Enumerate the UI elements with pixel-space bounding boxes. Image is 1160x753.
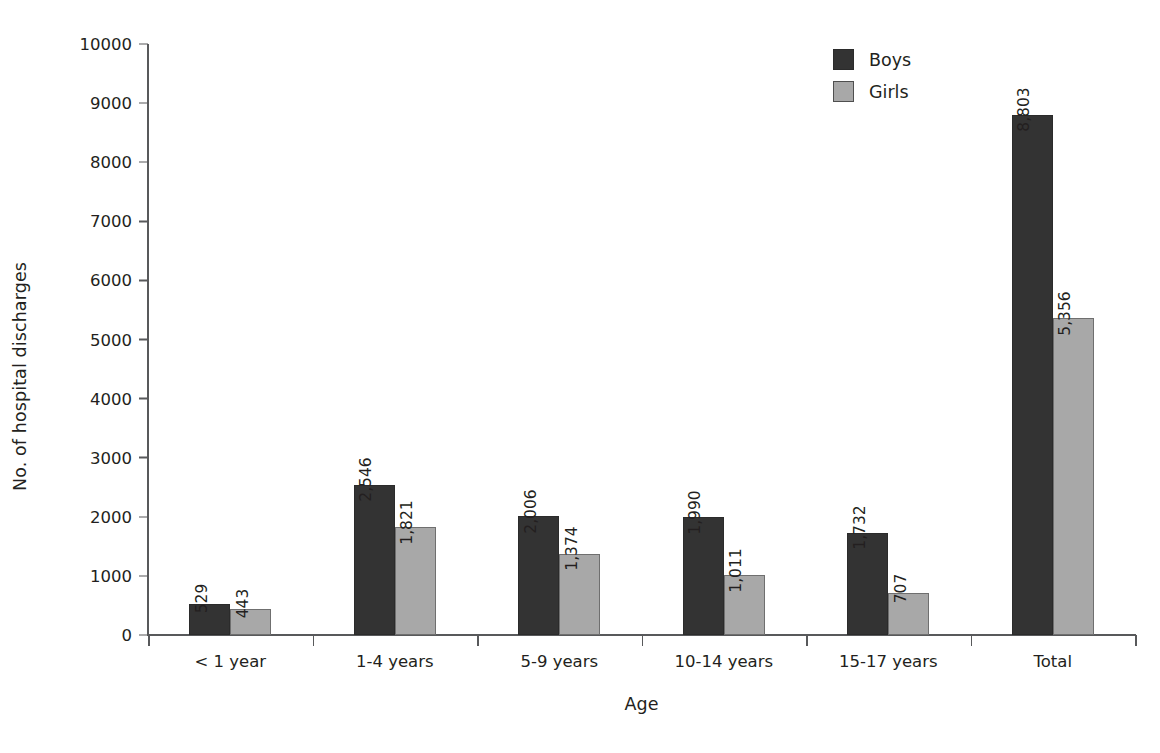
y-axis-tick-mark [139, 457, 148, 459]
bar-boys: 8,803 [1012, 115, 1053, 635]
y-axis-tick-mark [139, 221, 148, 223]
bar-value-label: 2,006 [523, 489, 539, 533]
bar-value-label: 1,821 [400, 500, 416, 544]
y-axis-tick-mark [139, 516, 148, 518]
plot-area: 0100020003000400050006000700080009000100… [148, 44, 1135, 635]
bar-boys: 2,546 [354, 485, 395, 635]
y-axis-tick-mark [139, 161, 148, 163]
y-axis-tick: 10000 [80, 35, 149, 54]
bar-value-label: 2,546 [359, 457, 375, 501]
y-axis-tick: 0 [122, 626, 149, 645]
y-axis-tick-label: 4000 [90, 389, 139, 408]
legend-swatch-icon [833, 81, 854, 102]
x-axis-tick-mark [148, 635, 150, 646]
y-axis-tick-mark [139, 634, 148, 636]
bar-boys: 1,990 [683, 517, 724, 635]
y-axis-tick: 3000 [90, 448, 148, 467]
bar-value-label: 8,803 [1017, 88, 1033, 132]
bar-girls: 5,356 [1053, 318, 1094, 635]
x-axis-tick-mark [1135, 635, 1137, 646]
x-axis-category-label: 5-9 years [477, 652, 642, 671]
bar-girls: 1,011 [724, 575, 765, 635]
y-axis-tick-label: 5000 [90, 330, 139, 349]
y-axis-tick: 9000 [90, 94, 148, 113]
y-axis-tick-label: 3000 [90, 448, 139, 467]
legend-label: Boys [869, 50, 911, 70]
x-axis-category-label: 15-17 years [806, 652, 971, 671]
y-axis-tick-label: 7000 [90, 212, 139, 231]
chart-legend: BoysGirls [833, 48, 911, 112]
x-axis-tick-mark [642, 635, 644, 646]
y-axis-tick-mark [139, 339, 148, 341]
y-axis-tick: 7000 [90, 212, 148, 231]
legend-item-boys[interactable]: Boys [833, 48, 911, 71]
y-axis-tick: 4000 [90, 389, 148, 408]
bar-value-label: 1,990 [688, 490, 704, 534]
y-axis-tick: 2000 [90, 507, 148, 526]
bar-value-label: 529 [194, 584, 210, 614]
bar-girls: 443 [230, 609, 271, 635]
x-axis-category-label: Total [971, 652, 1136, 671]
bar-value-label: 1,374 [564, 527, 580, 571]
y-axis-tick-mark [139, 398, 148, 400]
bar-value-label: 443 [235, 589, 251, 619]
bar-value-label: 1,011 [729, 548, 745, 592]
y-axis-tick: 6000 [90, 271, 148, 290]
y-axis-tick-label: 0 [122, 626, 140, 645]
bar-girls: 1,821 [395, 527, 436, 635]
legend-swatch-icon [833, 49, 854, 70]
x-axis-category-label: 1-4 years [313, 652, 478, 671]
bar-boys: 529 [189, 604, 230, 635]
y-axis-tick-label: 1000 [90, 566, 139, 585]
y-axis-tick-mark [139, 102, 148, 104]
legend-item-girls[interactable]: Girls [833, 80, 911, 103]
bar-value-label: 5,356 [1058, 291, 1074, 335]
bar-chart: No. of hospital discharges 0100020003000… [0, 0, 1160, 753]
y-axis-tick-label: 10000 [80, 35, 140, 54]
bar-value-label: 707 [893, 573, 909, 603]
x-axis-tick-mark [806, 635, 808, 646]
bar-girls: 1,374 [559, 554, 600, 635]
y-axis-tick-mark [139, 280, 148, 282]
bar-boys: 2,006 [518, 516, 559, 635]
x-axis-category-label: 10-14 years [642, 652, 807, 671]
legend-label: Girls [869, 82, 909, 102]
y-axis-tick-mark [139, 43, 148, 45]
y-axis-title: No. of hospital discharges [0, 0, 40, 753]
x-axis-tick-mark [313, 635, 315, 646]
bar-value-label: 1,732 [852, 505, 868, 549]
bar-boys: 1,732 [847, 533, 888, 635]
x-axis-tick-mark [971, 635, 973, 646]
x-axis-title: Age [148, 694, 1135, 714]
y-axis-tick-label: 2000 [90, 507, 139, 526]
x-axis-tick-mark [477, 635, 479, 646]
y-axis-tick: 5000 [90, 330, 148, 349]
y-axis-tick: 8000 [90, 153, 148, 172]
y-axis-tick: 1000 [90, 566, 148, 585]
x-axis-category-label: < 1 year [148, 652, 313, 671]
y-axis-tick-label: 9000 [90, 94, 139, 113]
y-axis-tick-label: 6000 [90, 271, 139, 290]
bar-girls: 707 [888, 593, 929, 635]
y-axis-tick-mark [139, 575, 148, 577]
y-axis-tick-label: 8000 [90, 153, 139, 172]
